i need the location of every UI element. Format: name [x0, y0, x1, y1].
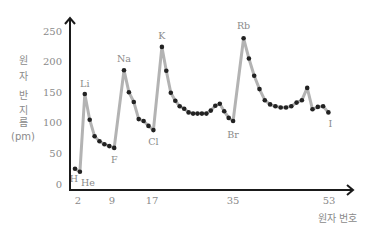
y-axis-title-part: 원 [19, 55, 28, 66]
data-point [151, 128, 156, 133]
y-tick-label: 250 [43, 26, 62, 37]
data-point [78, 170, 83, 175]
y-axis-title-part: 지 [19, 105, 28, 116]
data-point [268, 102, 273, 107]
data-point [132, 100, 137, 105]
data-point [136, 117, 141, 122]
data-point [204, 111, 209, 116]
data-point [209, 108, 214, 113]
data-point [247, 56, 252, 61]
atomic-radius-chart: 원자반지름(pm) 050100150200250 29173553 HHeLi… [0, 0, 378, 236]
data-point [141, 119, 146, 124]
data-point [173, 99, 178, 104]
data-point [305, 86, 310, 91]
data-point [213, 103, 218, 108]
data-point [169, 91, 174, 96]
y-axis-title-part: (pm) [11, 131, 35, 142]
data-point [326, 110, 331, 115]
y-axis-title-part: 자 [19, 71, 28, 82]
data-point [160, 45, 165, 50]
data-point [252, 73, 257, 78]
element-label: K [158, 30, 166, 41]
element-label: F [111, 154, 118, 165]
data-point [97, 139, 102, 144]
y-axis-title-part: 반 [19, 90, 28, 101]
y-tick-label: 200 [43, 56, 62, 67]
data-point [112, 146, 117, 151]
y-axis-tick-labels: 050100150200250 [43, 26, 62, 190]
element-label: H [70, 173, 78, 184]
element-label: Rb [237, 20, 250, 31]
data-point [289, 104, 294, 109]
data-point [87, 117, 92, 122]
element-label: Na [117, 53, 131, 64]
x-tick-label: 53 [323, 195, 336, 206]
element-label: He [81, 177, 95, 188]
data-point [73, 166, 78, 171]
data-point [191, 111, 196, 116]
x-axis-tick-labels: 29173553 [75, 195, 336, 206]
x-tick-label: 9 [109, 195, 115, 206]
data-point [182, 106, 187, 111]
data-point [316, 105, 321, 110]
element-label: Br [227, 129, 239, 140]
data-point [146, 124, 151, 129]
data-point [122, 68, 127, 73]
data-point [273, 104, 278, 109]
x-tick-label: 17 [146, 195, 159, 206]
data-point [92, 134, 97, 139]
data-point [127, 90, 132, 95]
y-tick-label: 0 [56, 179, 62, 190]
data-point [284, 105, 289, 110]
data-point [218, 102, 223, 107]
data-point [83, 92, 88, 97]
x-tick-label: 2 [75, 195, 81, 206]
element-label: I [329, 118, 333, 129]
data-point [294, 100, 299, 105]
data-point [222, 109, 227, 114]
data-point [241, 36, 246, 41]
x-tick-label: 35 [227, 195, 240, 206]
data-point [226, 116, 231, 121]
data-point [200, 111, 205, 116]
data-point [257, 87, 262, 92]
y-axis-title-part: 름 [19, 117, 28, 128]
data-point [300, 98, 305, 103]
data-point [195, 111, 200, 116]
data-point [231, 119, 236, 124]
data-point [107, 144, 112, 149]
data-point [177, 104, 182, 109]
data-point [321, 104, 326, 109]
y-tick-label: 50 [49, 148, 62, 159]
data-point [102, 142, 107, 147]
data-point [310, 107, 315, 112]
data-point [164, 69, 169, 74]
y-tick-label: 150 [43, 87, 62, 98]
element-label: Cl [148, 136, 158, 147]
x-axis-title: 원자 번호 [318, 213, 357, 224]
y-axis-title: 원자반지름(pm) [11, 55, 35, 142]
data-point [186, 110, 191, 115]
data-point [278, 105, 283, 110]
y-tick-label: 100 [43, 117, 62, 128]
element-label: Li [80, 78, 89, 89]
data-point [263, 98, 268, 103]
